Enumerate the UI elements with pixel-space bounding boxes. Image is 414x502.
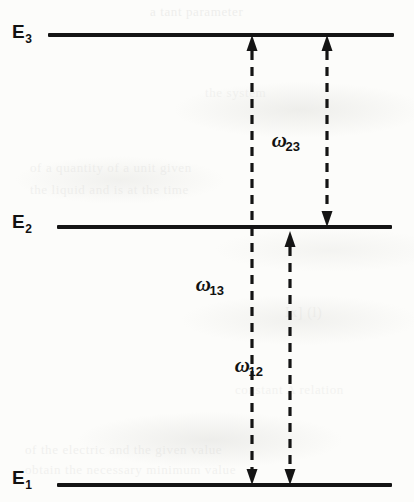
omega-subscript-w23: 23 xyxy=(286,139,300,154)
level-symbol-e3: E xyxy=(12,21,25,42)
transition-arrow-w12 xyxy=(270,231,310,485)
level-subscript-e2: 2 xyxy=(25,222,32,236)
level-label-e2: E2 xyxy=(12,211,32,236)
transition-label-w23: ω23 xyxy=(272,128,304,154)
transition-arrow-w23 xyxy=(307,35,347,227)
level-subscript-e3: 3 xyxy=(25,32,32,46)
scan-artifact-text: obtain the necessary minimum value xyxy=(25,462,236,478)
level-symbol-e1: E xyxy=(12,467,25,488)
scan-artifact-text: a tant parameter xyxy=(150,4,243,20)
omega-symbol-w12: ω xyxy=(235,353,250,377)
level-label-e3: E3 xyxy=(12,21,32,46)
scan-artifact-text: of a quantity of a unit given xyxy=(30,160,192,176)
level-subscript-e1: 1 xyxy=(25,478,32,492)
omega-subscript-w13: 13 xyxy=(210,283,224,298)
transition-label-w12: ω12 xyxy=(235,353,267,379)
transition-arrow-w13 xyxy=(232,35,272,485)
paper-grain xyxy=(0,0,414,502)
transition-label-w13: ω13 xyxy=(196,272,228,298)
scan-artifact-text: the liquid and is at the time xyxy=(30,182,189,198)
omega-symbol-w13: ω xyxy=(196,272,211,296)
scan-artifact-text: of the electric and the given value xyxy=(25,442,222,458)
level-symbol-e2: E xyxy=(12,211,25,232)
level-line-e1 xyxy=(57,483,392,487)
energy-level-diagram: a tant parameterthe systemof a quantity … xyxy=(0,0,414,502)
level-label-e1: E1 xyxy=(12,467,32,492)
omega-subscript-w12: 12 xyxy=(249,364,263,379)
omega-symbol-w23: ω xyxy=(272,128,287,152)
